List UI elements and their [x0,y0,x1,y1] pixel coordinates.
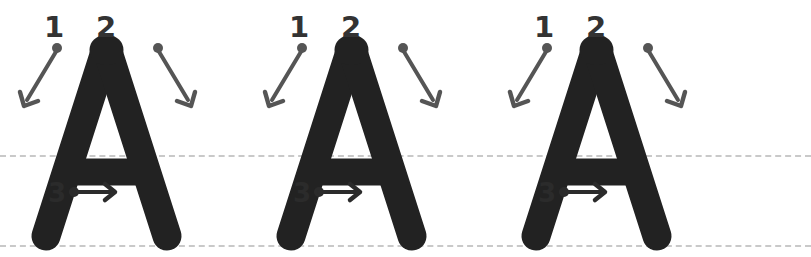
stroke-number-3: 3 [293,180,311,206]
stroke-1-shaft [272,50,302,100]
stroke-number-1: 1 [44,13,64,42]
stroke-1-arrow [510,43,552,106]
letter-stroke-diagram-3: 1 2 3 [490,0,735,257]
letter-a-glyph [536,50,657,236]
worksheet-canvas: 1 2 3 [0,0,811,257]
stroke-2-arrow [643,43,685,106]
letter-a-right-stroke [108,52,167,236]
stroke-number-1: 1 [289,13,309,42]
letter-glyph-wrap [490,0,735,257]
letter-a-glyph [291,50,412,236]
stroke-number-2: 2 [586,13,606,42]
letter-a-svg [490,0,735,257]
stroke-number-1: 1 [534,13,554,42]
letter-glyph-wrap [0,0,245,257]
letter-a-left-stroke [536,52,595,236]
stroke-2-arrow [153,43,195,106]
stroke-2-shaft [403,50,433,100]
letter-a-right-stroke [598,52,657,236]
stroke-2-arrow [398,43,440,106]
stroke-1-arrow [265,43,307,106]
letter-glyph-wrap [245,0,490,257]
letter-a-left-stroke [291,52,350,236]
stroke-1-shaft [517,50,547,100]
stroke-number-3: 3 [538,180,556,206]
letter-stroke-diagram-1: 1 2 3 [0,0,245,257]
stroke-1-arrow [20,43,62,106]
letter-a-right-stroke [353,52,412,236]
stroke-number-2: 2 [341,13,361,42]
stroke-number-2: 2 [96,13,116,42]
letter-a-svg [245,0,490,257]
letter-a-left-stroke [46,52,105,236]
letter-a-glyph [46,50,167,236]
letter-a-svg [0,0,245,257]
stroke-2-shaft [158,50,188,100]
stroke-2-shaft [648,50,678,100]
stroke-number-3: 3 [48,180,66,206]
stroke-1-shaft [27,50,57,100]
letter-stroke-diagram-2: 1 2 3 [245,0,490,257]
